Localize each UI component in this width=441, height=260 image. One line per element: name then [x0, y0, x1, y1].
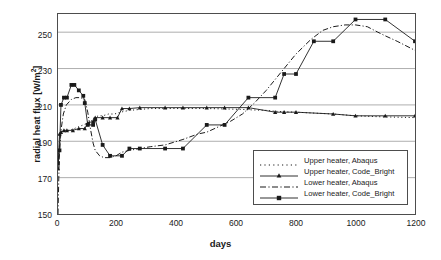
- legend-item-upper-abaqus: Upper heater, Abaqus: [259, 156, 402, 166]
- legend: Upper heater, Abaqus Upper heater, Code_…: [253, 150, 408, 205]
- y-tick-190: 190: [22, 139, 52, 148]
- chart-figure: radial heat flux [W/m2] 250 230 210 190 …: [0, 0, 441, 260]
- x-tick-0: 0: [37, 219, 77, 228]
- legend-label-upper-codebright: Upper heater, Code_Bright: [299, 167, 394, 177]
- legend-label-lower-abaqus: Lower heater, Abaqus: [299, 178, 377, 188]
- legend-swatch-solid-triangle: [259, 167, 299, 177]
- x-tick-200: 200: [96, 219, 136, 228]
- legend-swatch-dashdot: [259, 178, 299, 188]
- x-tick-1000: 1000: [336, 219, 376, 228]
- legend-label-lower-codebright: Lower heater, Code_Bright: [299, 189, 394, 199]
- x-tick-400: 400: [156, 219, 196, 228]
- legend-item-lower-codebright: Lower heater, Code_Bright: [259, 189, 402, 199]
- y-tick-210: 210: [22, 103, 52, 112]
- legend-swatch-dotted: [259, 156, 299, 166]
- legend-label-upper-abaqus: Upper heater, Abaqus: [299, 156, 377, 166]
- legend-item-lower-abaqus: Lower heater, Abaqus: [259, 178, 402, 188]
- y-tick-230: 230: [22, 67, 52, 76]
- legend-item-upper-codebright: Upper heater, Code_Bright: [259, 167, 402, 177]
- x-tick-800: 800: [276, 219, 316, 228]
- y-tick-250: 250: [22, 31, 52, 40]
- legend-swatch-solid-square: [259, 189, 299, 199]
- x-tick-1200: 1200: [396, 219, 436, 228]
- x-tick-600: 600: [216, 219, 256, 228]
- x-axis-title: days: [0, 238, 441, 249]
- y-tick-170: 170: [22, 175, 52, 184]
